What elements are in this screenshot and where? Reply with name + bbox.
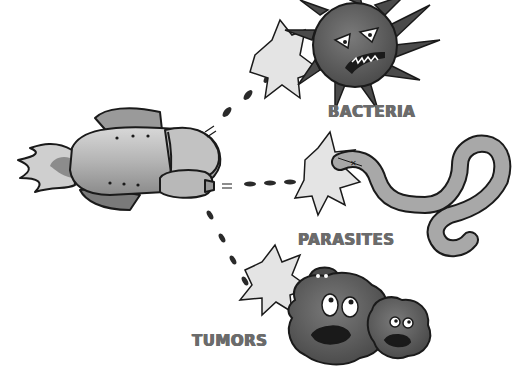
label-tumors: TUMORS — [192, 334, 267, 349]
label-parasites: PARASITES — [298, 233, 395, 248]
rocket-ship-icon — [18, 108, 232, 210]
illustration-scene: ✕ — [0, 0, 512, 383]
impact-burst-icon — [295, 132, 360, 215]
label-bacteria: BACTERIA — [328, 105, 415, 120]
svg-text:✕: ✕ — [350, 159, 357, 168]
angry-spiky-bacterium-icon — [285, 0, 440, 110]
scared-tumor-blobs-icon — [288, 268, 430, 365]
